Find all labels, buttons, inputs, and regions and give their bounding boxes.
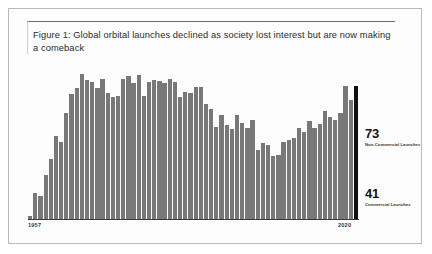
- bar: [137, 75, 141, 219]
- bar: [281, 142, 285, 219]
- title-block: Figure 1: Global orbital launches declin…: [27, 21, 395, 54]
- bar: [157, 81, 161, 219]
- bar: [225, 125, 229, 219]
- bar: [90, 82, 94, 219]
- bar: [256, 150, 260, 219]
- bar: [333, 120, 337, 219]
- bar: [178, 97, 182, 219]
- bar: [183, 92, 187, 219]
- bar: [214, 127, 218, 219]
- bar: [307, 121, 311, 219]
- page-title: Figure 1: Global orbital launches declin…: [33, 29, 391, 54]
- bar: [338, 113, 342, 219]
- annotation-non-commercial: 73 Non-Commercial Launches: [365, 127, 420, 147]
- bar: [116, 96, 120, 219]
- bar: [69, 94, 73, 219]
- bar: [354, 86, 358, 219]
- bar: [292, 138, 296, 219]
- bar: [33, 193, 37, 219]
- bar: [297, 128, 301, 219]
- figure-card: Figure 1: Global orbital launches declin…: [8, 8, 422, 244]
- bar: [131, 83, 135, 219]
- bar: [240, 123, 244, 219]
- bar: [312, 128, 316, 219]
- bar: [100, 79, 104, 219]
- bar: [85, 80, 89, 219]
- bar: [276, 155, 280, 219]
- bar: [318, 124, 322, 219]
- bar: [343, 86, 347, 219]
- bar: [235, 115, 239, 219]
- bar: [162, 83, 166, 219]
- bar-series: [28, 67, 358, 219]
- bar: [142, 96, 146, 219]
- bar: [302, 132, 306, 219]
- bar: [49, 159, 53, 219]
- bar: [194, 87, 198, 219]
- bar: [121, 79, 125, 219]
- x-axis-tick-start: 1957: [28, 222, 41, 228]
- bar: [126, 76, 130, 219]
- bar: [59, 142, 63, 219]
- bar: [261, 143, 265, 219]
- bar: [147, 82, 151, 219]
- annotation-value-commercial: 41: [365, 187, 411, 200]
- annotation-caption-non-commercial: Non-Commercial Launches: [365, 142, 420, 147]
- bar: [38, 196, 42, 219]
- bar: [64, 113, 68, 219]
- annotation-caption-commercial: Commercial Launches: [365, 202, 411, 207]
- bar: [111, 97, 115, 219]
- annotation-commercial: 41 Commercial Launches: [365, 187, 411, 207]
- bar: [168, 79, 172, 219]
- bar: [287, 140, 291, 220]
- bar: [271, 156, 275, 219]
- bar: [323, 111, 327, 219]
- bar: [209, 109, 213, 219]
- bar: [152, 80, 156, 219]
- bar: [328, 117, 332, 219]
- x-axis-tick-end: 2020: [338, 222, 351, 228]
- bar: [188, 93, 192, 219]
- annotation-value-non-commercial: 73: [365, 127, 420, 140]
- bar-chart-plot-area: [28, 67, 358, 219]
- bar: [80, 74, 84, 219]
- bar: [44, 175, 48, 219]
- x-axis-baseline: [28, 219, 359, 220]
- bar: [199, 87, 203, 219]
- bar: [173, 82, 177, 219]
- bar: [106, 93, 110, 219]
- bar: [75, 88, 79, 219]
- bar: [230, 129, 234, 219]
- bar: [245, 128, 249, 219]
- bar: [54, 136, 58, 219]
- bar: [250, 120, 254, 219]
- bar: [266, 145, 270, 219]
- bar: [219, 115, 223, 219]
- bar: [349, 100, 353, 219]
- bar: [95, 88, 99, 219]
- bar: [204, 104, 208, 219]
